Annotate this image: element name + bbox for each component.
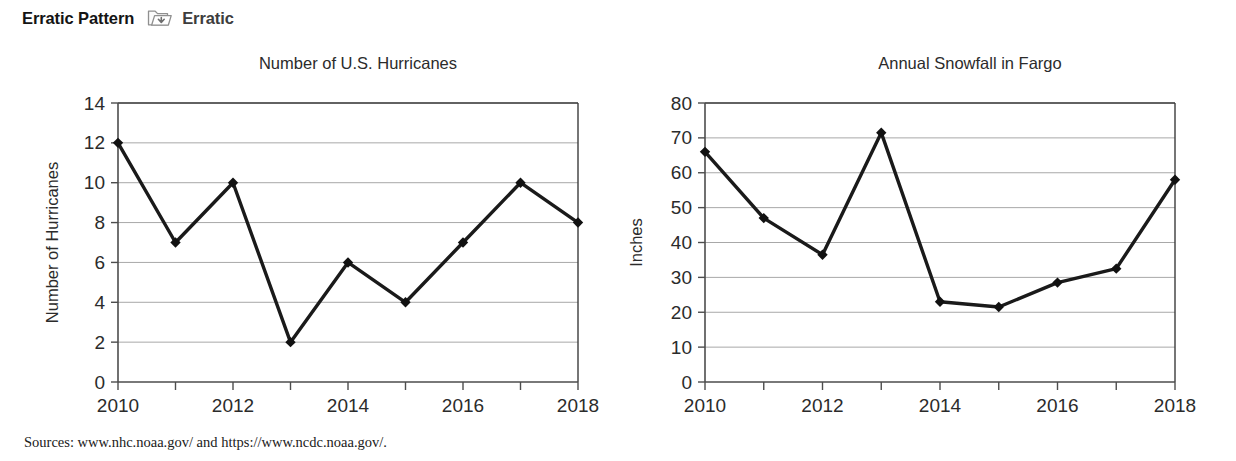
page-title: Erratic Pattern bbox=[22, 9, 134, 28]
data-point bbox=[1052, 277, 1062, 287]
chart-title: Annual Snowfall in Fargo bbox=[878, 54, 1061, 72]
x-tick-label: 2016 bbox=[442, 395, 484, 416]
x-tick-label: 2018 bbox=[557, 395, 599, 416]
x-tick-label: 2014 bbox=[919, 395, 962, 416]
x-tick-label: 2016 bbox=[1036, 395, 1078, 416]
y-axis-label: Inches bbox=[628, 218, 645, 267]
y-tick-label: 2 bbox=[94, 332, 105, 353]
data-point bbox=[994, 302, 1004, 312]
x-tick-label: 2010 bbox=[684, 395, 726, 416]
y-tick-label: 0 bbox=[681, 372, 692, 393]
y-tick-label: 10 bbox=[671, 337, 692, 358]
data-series-line bbox=[118, 143, 578, 342]
y-tick-label: 20 bbox=[671, 302, 692, 323]
x-tick-label: 2014 bbox=[327, 395, 370, 416]
y-tick-label: 8 bbox=[94, 212, 105, 233]
y-tick-label: 40 bbox=[671, 232, 692, 253]
y-axis-label: Number of Hurricanes bbox=[43, 162, 61, 323]
x-tick-label: 2010 bbox=[97, 395, 139, 416]
folder-arrow-icon bbox=[145, 7, 173, 29]
y-tick-label: 60 bbox=[671, 162, 692, 183]
chart-hurricanes: Number of U.S. Hurricanes024681012142010… bbox=[40, 50, 610, 425]
data-series-line bbox=[705, 133, 1175, 307]
y-tick-label: 4 bbox=[94, 292, 105, 313]
data-point bbox=[935, 297, 945, 307]
page-subtitle: Erratic bbox=[182, 9, 234, 28]
section-header: Erratic Pattern Erratic bbox=[22, 4, 234, 32]
source-note: Sources: www.nhc.noaa.gov/ and https://w… bbox=[24, 434, 387, 451]
x-tick-label: 2018 bbox=[1154, 395, 1196, 416]
y-tick-label: 14 bbox=[84, 93, 106, 114]
y-tick-label: 6 bbox=[94, 252, 105, 273]
x-tick-label: 2012 bbox=[801, 395, 843, 416]
snowfall-line-chart: Annual Snowfall in Fargo0102030405060708… bbox=[628, 50, 1228, 425]
x-tick-label: 2012 bbox=[212, 395, 254, 416]
y-tick-label: 10 bbox=[84, 172, 105, 193]
y-tick-label: 12 bbox=[84, 132, 105, 153]
chart-title: Number of U.S. Hurricanes bbox=[259, 54, 457, 72]
y-tick-label: 50 bbox=[671, 197, 692, 218]
y-tick-label: 0 bbox=[94, 372, 105, 393]
y-tick-label: 30 bbox=[671, 267, 692, 288]
y-tick-label: 70 bbox=[671, 127, 692, 148]
y-tick-label: 80 bbox=[671, 93, 692, 114]
chart-snowfall: Annual Snowfall in Fargo0102030405060708… bbox=[628, 50, 1228, 425]
hurricanes-line-chart: Number of U.S. Hurricanes024681012142010… bbox=[40, 50, 610, 425]
